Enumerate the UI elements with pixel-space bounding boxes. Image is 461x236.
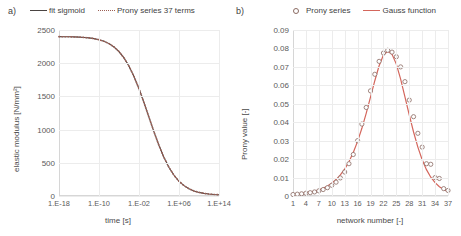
y-axis-tick-label: 1000 [37,125,55,134]
data-point-marker [321,187,325,191]
y-axis-tick-label: 0.08 [273,44,289,53]
data-point-marker [390,50,394,54]
y-axis-tick-label: 0.04 [273,118,289,127]
panel-a: a) fit sigmoid Prony series 37 terms 050… [0,0,232,236]
x-axis-tick-label: 28 [405,199,413,208]
data-point-marker [429,162,433,166]
x-axis-tick-label: 10 [328,199,336,208]
x-axis-tick-label: 37 [444,199,452,208]
y-axis-tick-label: 0.03 [273,136,289,145]
gridline-vertical [319,30,320,196]
gridline-vertical [358,30,359,196]
x-axis-tick-label: 1.E-10 [88,199,110,208]
data-point-marker [411,115,415,119]
data-point-marker [442,187,446,191]
gridline-horizontal [59,196,219,197]
panel-a-y-axis-title: elastic modulus [N/mm²] [12,86,21,172]
panel-b-plot-area: 00.010.020.030.040.050.060.070.080.09147… [293,30,448,196]
x-axis-tick-label: 31 [418,199,426,208]
data-point-marker [377,59,381,63]
gridline-vertical [396,30,397,196]
y-axis-tick-label: 0 [285,192,289,201]
legend-label-prony-series: Prony series [306,6,350,15]
panel-a-x-axis-title: time [s] [105,216,131,225]
gridline-vertical [332,30,333,196]
x-axis-tick-label: 1.E-18 [48,199,70,208]
data-point-marker [364,105,368,109]
data-point-marker [416,131,420,135]
panel-b-legend: Prony series Gauss function [287,6,436,15]
data-point-marker [424,162,428,166]
y-axis-tick-label: 2000 [37,59,55,68]
data-point-marker [308,191,312,195]
x-axis-tick-label: 13 [341,199,349,208]
gridline-horizontal [293,196,448,197]
data-point-marker [347,162,351,166]
panel-b-y-axis-title: Prony value [-] [240,108,249,160]
legend-item-prony-series-37: Prony series 37 terms [98,6,195,15]
panel-b-tag: b) [236,6,244,16]
panel-a-tag: a) [8,6,16,16]
panel-b-x-axis-title: network number [-] [337,216,404,225]
x-axis-tick-label: 1 [291,199,295,208]
x-axis-tick-label: 19 [366,199,374,208]
x-axis-tick-label: 1.E+14 [207,199,231,208]
x-axis-tick-label: 7 [317,199,321,208]
x-axis-tick-label: 16 [353,199,361,208]
y-axis-tick-label: 0.07 [273,62,289,71]
legend-item-gauss-function: Gauss function [363,6,435,15]
data-point-marker [325,186,329,190]
y-axis-tick-label: 2500 [37,26,55,35]
x-axis-tick-label: 1.E+06 [167,199,191,208]
dotted-line-key-icon [98,10,115,11]
gridline-vertical [448,30,449,196]
gridline-vertical [139,30,140,196]
y-axis-tick-label: 0.05 [273,99,289,108]
y-axis-tick-label: 0.01 [273,173,289,182]
legend-item-fit-sigmoid: fit sigmoid [30,6,85,15]
data-point-marker [312,190,316,194]
gridline-vertical [371,30,372,196]
gridline-vertical [179,30,180,196]
y-axis-tick-label: 500 [42,158,55,167]
y-axis-tick-label: 1500 [37,92,55,101]
data-point-marker [403,80,407,84]
data-point-marker [351,152,355,156]
y-axis-tick-label: 0.06 [273,81,289,90]
gridline-vertical [99,30,100,196]
legend-label-gauss-function: Gauss function [382,6,435,15]
panel-b: b) Prony series Gauss function 00.010.02… [232,0,461,236]
y-axis-tick-label: 0.09 [273,26,289,35]
x-axis-tick-label: 4 [304,199,308,208]
gridline-vertical [306,30,307,196]
gridline-vertical [435,30,436,196]
figure-container: a) fit sigmoid Prony series 37 terms 050… [0,0,461,236]
legend-label-fit-sigmoid: fit sigmoid [49,6,85,15]
panel-a-legend: fit sigmoid Prony series 37 terms [30,6,195,15]
legend-label-prony-series-37: Prony series 37 terms [117,6,195,15]
solid-line-key-icon [30,10,47,11]
gridline-vertical [422,30,423,196]
x-axis-tick-label: 22 [379,199,387,208]
gridline-vertical [345,30,346,196]
open-circle-key-icon [287,7,304,15]
x-axis-tick-label: 25 [392,199,400,208]
data-point-marker [334,180,338,184]
gridline-vertical [409,30,410,196]
gridline-vertical [219,30,220,196]
panel-a-plot-area: 050010001500200025001.E-181.E-101.E-021.… [59,30,219,196]
legend-item-prony-series: Prony series [287,6,350,15]
x-axis-tick-label: 1.E-02 [128,199,150,208]
x-axis-tick-label: 34 [431,199,439,208]
gridline-vertical [383,30,384,196]
data-point-marker [373,72,377,76]
y-axis-tick-label: 0.02 [273,155,289,164]
red-line-key-icon [363,10,380,11]
